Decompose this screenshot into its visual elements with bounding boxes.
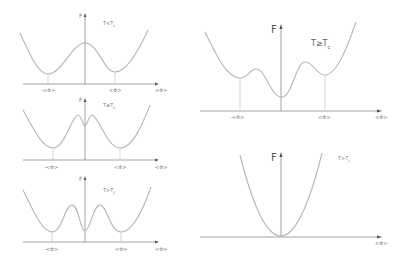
y-label: F <box>271 24 277 35</box>
x-axis-arrow-icon <box>155 159 159 162</box>
neg-phi-label: -<Φ> <box>44 164 58 170</box>
y-label: F <box>79 175 83 182</box>
y-label: F <box>79 12 83 19</box>
neg-phi-label: -<Φ> <box>230 114 244 120</box>
pos-phi-label: <Φ> <box>318 114 330 120</box>
free-energy-curve <box>23 105 150 148</box>
free-energy-curve <box>20 30 148 74</box>
y-label: F <box>271 152 277 163</box>
x-axis-arrow-icon <box>155 241 159 244</box>
pos-phi-label: <Φ> <box>114 164 126 170</box>
panel-title: T≥Tc <box>310 39 331 50</box>
y-axis-arrow-icon <box>279 152 282 157</box>
panel-title: T>Tc <box>102 187 116 195</box>
panel-t-gt-tc-triple: F T>Tc -<Φ> <Φ> <Φ> <box>23 175 167 252</box>
y-label: F <box>79 96 83 103</box>
neg-phi-label: -<Φ> <box>41 87 55 93</box>
x-label: <Φ> <box>155 246 167 252</box>
x-axis-arrow-icon <box>155 83 159 86</box>
pos-phi-label: <Φ> <box>115 246 127 252</box>
free-energy-curve <box>23 187 151 232</box>
panel-t-le-tc: F T≤Tc -<Φ> <Φ> <Φ> <box>23 96 167 170</box>
y-axis-arrow-icon <box>84 176 87 180</box>
neg-phi-label: -<Φ> <box>44 246 58 252</box>
panel-t-less-tc: F T<Tc -<Φ> <Φ> <Φ> <box>20 12 167 93</box>
panel-title: T<Tc <box>102 20 116 28</box>
pos-phi-label: <Φ> <box>109 87 121 93</box>
x-label: <Φ> <box>155 87 167 93</box>
panel-title: T>Tc <box>337 155 351 163</box>
x-label: <Φ> <box>375 114 387 120</box>
x-axis-arrow-icon <box>377 109 382 112</box>
phase-transition-diagram: F T<Tc -<Φ> <Φ> <Φ> F T≤Tc -<Φ> <Φ> <Φ> … <box>0 0 409 262</box>
y-axis-arrow-icon <box>84 13 87 17</box>
y-axis-arrow-icon <box>84 98 87 102</box>
panel-title: T≤Tc <box>102 102 116 110</box>
free-energy-curve <box>205 22 356 97</box>
x-label: <Φ> <box>375 240 387 246</box>
panel-t-gt-tc-single: F T>Tc <Φ> <box>200 152 387 246</box>
x-axis-arrow-icon <box>377 235 382 238</box>
x-label: <Φ> <box>155 164 167 170</box>
panel-t-ge-tc: F T≥Tc -<Φ> <Φ> <Φ> <box>200 22 387 120</box>
y-axis-arrow-icon <box>279 24 282 29</box>
